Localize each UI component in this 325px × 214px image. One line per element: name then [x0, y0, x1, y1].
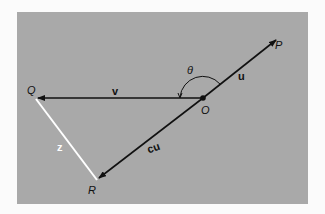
vector-u: [203, 40, 276, 98]
segment-z: [36, 99, 97, 180]
label-o: O: [201, 104, 210, 116]
label-cu: cu: [145, 140, 161, 156]
label-v: v: [112, 85, 119, 97]
vector-diagram: Q P O R v u cu z θ: [0, 0, 325, 214]
label-p: P: [275, 39, 283, 51]
label-q: Q: [27, 84, 36, 96]
label-z: z: [57, 141, 63, 153]
label-u: u: [238, 70, 245, 82]
angle-theta-arc: [180, 76, 220, 97]
origin-point: [200, 95, 206, 101]
label-r: R: [88, 184, 96, 196]
vector-cu: [99, 98, 203, 178]
label-theta: θ: [187, 64, 193, 76]
